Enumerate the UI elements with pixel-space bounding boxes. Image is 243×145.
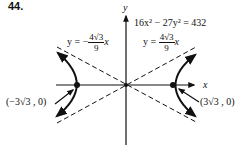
fraction: 4√39 xyxy=(88,32,104,53)
right-vertex-label: (3√3 , 0) xyxy=(200,97,235,107)
right-vertex-pointer xyxy=(179,89,199,102)
fraction-numerator: 4√3 xyxy=(159,32,175,43)
fraction: 4√39 xyxy=(159,32,175,53)
left-vertex-label: (−3√3 , 0) xyxy=(6,97,46,107)
left-vertex-dot xyxy=(74,82,80,88)
asymptote-prefix: y = − xyxy=(67,36,88,47)
asymptote-prefix: y = xyxy=(143,36,159,47)
hyperbola-graph xyxy=(0,0,243,145)
negative-asymptote-label: y = −4√39x xyxy=(67,32,109,53)
fraction-denominator: 9 xyxy=(88,43,104,53)
asymptote-variable: x xyxy=(104,36,108,47)
y-axis-label: y xyxy=(123,3,127,13)
asymptote-variable: x xyxy=(175,36,179,47)
equation-label: 16x² − 27y² = 432 xyxy=(134,18,206,28)
origin-dot xyxy=(124,83,128,87)
fraction-numerator: 4√3 xyxy=(88,32,104,43)
x-axis-label: x xyxy=(203,80,207,90)
fraction-denominator: 9 xyxy=(159,43,175,53)
right-vertex-dot xyxy=(170,82,176,88)
positive-asymptote-label: y = 4√39x xyxy=(143,32,179,53)
